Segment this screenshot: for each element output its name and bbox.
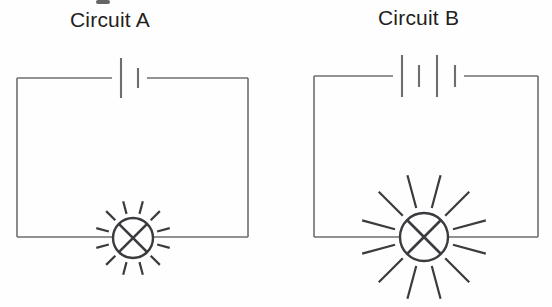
lamp-ray xyxy=(123,201,126,214)
cropped-text-fragment xyxy=(96,0,110,4)
circuit-a-schematic xyxy=(17,58,248,275)
lamp-ray xyxy=(139,262,142,275)
lamp-ray xyxy=(445,192,469,216)
lamp-ray xyxy=(139,201,142,214)
lamp-symbol xyxy=(96,201,169,274)
lamp-ray xyxy=(362,245,395,254)
lamp-ray xyxy=(453,220,486,229)
scan-artifact xyxy=(96,0,110,4)
lamp-ray xyxy=(407,266,416,299)
lamp-ray xyxy=(445,258,469,282)
circuit-drawing-canvas xyxy=(0,0,552,307)
lamp-ray xyxy=(106,211,115,220)
circuit-b-schematic xyxy=(314,55,538,299)
lamp-ray xyxy=(106,256,115,265)
lamp-ray xyxy=(432,266,441,299)
lamp-ray xyxy=(379,258,403,282)
lamp-ray xyxy=(151,211,160,220)
battery-symbol xyxy=(121,58,138,98)
lamp-ray xyxy=(123,262,126,275)
lamp-ray xyxy=(379,192,403,216)
circuit-wires xyxy=(17,78,248,237)
lamp-ray xyxy=(96,244,109,247)
battery-symbol xyxy=(402,55,455,97)
lamp-ray xyxy=(157,244,170,247)
circuit-comparison-diagram: Circuit A Circuit B xyxy=(0,0,552,307)
lamp-ray xyxy=(157,228,170,231)
lamp-ray xyxy=(407,175,416,208)
lamp-ray xyxy=(96,228,109,231)
lamp-ray xyxy=(432,175,441,208)
lamp-ray xyxy=(453,245,486,254)
lamp-ray xyxy=(151,256,160,265)
lamp-ray xyxy=(362,220,395,229)
